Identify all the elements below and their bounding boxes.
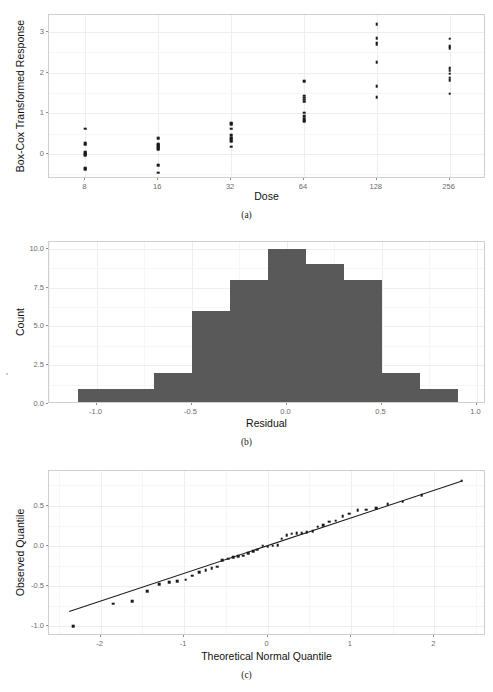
- panel-a-plot-area: [48, 14, 485, 178]
- panel-a-data-point: [448, 73, 451, 76]
- panel-c-data-point: [375, 507, 378, 510]
- panel-c-y-tick-label: 0.5: [22, 500, 44, 509]
- panel-c-data-point: [401, 500, 404, 503]
- panel-c-y-tickmark: [46, 585, 48, 586]
- panel-c-data-point: [461, 479, 464, 482]
- panel-c-data-point: [176, 580, 179, 583]
- panel-c-gridline-horizontal-minor: [49, 485, 484, 486]
- panel-c-gridline-horizontal-minor: [49, 526, 484, 527]
- panel-c-x-tickmark: [100, 635, 101, 637]
- panel-a-data-point: [303, 112, 306, 115]
- panel-b-x-tick-label: 1.0: [470, 407, 480, 416]
- panel-c-data-point: [335, 520, 338, 523]
- panel-c-gridline-vertical: [101, 471, 102, 634]
- panel-a-x-tickmark: [376, 178, 377, 180]
- panel-c-data-point: [311, 530, 314, 533]
- panel-c-gridline-vertical: [351, 471, 352, 634]
- panel-a-data-point: [84, 127, 87, 130]
- panel-c-data-point: [300, 532, 303, 535]
- panel-b-gridline-vertical-minor: [49, 242, 50, 402]
- panel-c-y-tickmark: [46, 505, 48, 506]
- panel-b-gridline-vertical: [97, 242, 98, 402]
- panel-a-x-tickmark: [84, 178, 85, 180]
- panel-c-gridline-vertical: [268, 471, 269, 634]
- panel-c-x-tickmark: [267, 635, 268, 637]
- panel-b-x-tick-label: -1.0: [89, 407, 102, 416]
- panel-b-y-tickmark: [46, 325, 48, 326]
- panel-b-histogram-bar: [268, 249, 306, 403]
- panel-c-x-tick-label: -2: [96, 639, 103, 648]
- panel-b-y-tickmark: [46, 403, 48, 404]
- panel-a-x-tickmark: [157, 178, 158, 180]
- panel-c-data-point: [290, 532, 293, 535]
- panel-b-histogram-bar: [420, 389, 458, 404]
- panel-b-y-tickmark: [46, 287, 48, 288]
- panel-c-data-point: [261, 545, 264, 548]
- panel-a-data-point: [157, 164, 160, 167]
- panel-a-x-tick-label: 16: [153, 182, 161, 191]
- figure-page: Dose Box-Cox Transformed Response (a) 81…: [0, 0, 493, 692]
- panel-c-gridline-vertical-minor: [142, 471, 143, 634]
- panel-b-histogram-bar: [192, 311, 230, 403]
- panel-c-data-point: [280, 537, 283, 540]
- panel-c-data-point: [168, 581, 171, 584]
- caption-a: (a): [0, 210, 493, 220]
- panel-c-data-point: [158, 583, 161, 586]
- panel-b-residual-histogram: Residual Count (b) -1.0-0.50.00.51.00.02…: [0, 230, 493, 462]
- panel-c-data-point: [232, 556, 235, 559]
- panel-c-data-point: [276, 544, 279, 547]
- panel-c-gridline-vertical-minor: [309, 471, 310, 634]
- panel-b-gridline-horizontal-minor: [49, 268, 484, 269]
- panel-b-y-tickmark: [46, 364, 48, 365]
- panel-c-y-tickmark: [46, 625, 48, 626]
- panel-c-y-axis-title: Observed Quantile: [14, 470, 26, 635]
- panel-c-data-point: [204, 569, 207, 572]
- panel-c-data-point: [198, 571, 201, 574]
- panel-a-gridline-vertical: [158, 15, 159, 177]
- panel-a-data-point: [448, 69, 451, 72]
- panel-b-histogram-bar: [154, 373, 192, 403]
- panel-c-data-point: [356, 509, 359, 512]
- panel-b-y-tick-label: 2.5: [22, 360, 44, 369]
- panel-b-histogram-bar: [78, 389, 116, 404]
- panel-c-qq-plot: Theoretical Normal Quantile Observed Qua…: [0, 462, 493, 692]
- panel-b-histogram-bar: [382, 373, 420, 403]
- panel-c-x-tick-label: -1: [180, 639, 187, 648]
- panel-b-x-tickmark: [476, 403, 477, 405]
- panel-a-y-tick-label: 1: [24, 108, 44, 117]
- panel-b-y-tick-label: 10.0: [22, 243, 44, 252]
- panel-c-x-tick-label: 1: [348, 639, 352, 648]
- panel-c-y-tick-label: -1.0: [22, 621, 44, 630]
- panel-a-x-tick-label: 64: [299, 182, 307, 191]
- panel-c-data-point: [285, 534, 288, 537]
- panel-a-x-tickmark: [449, 178, 450, 180]
- panel-c-data-point: [316, 525, 319, 528]
- panel-c-x-tick-label: 0: [264, 639, 268, 648]
- panel-c-gridline-vertical-minor: [59, 471, 60, 634]
- panel-a-data-point: [84, 154, 87, 157]
- panel-b-gridline-vertical: [477, 242, 478, 402]
- panel-a-data-point: [157, 137, 160, 140]
- panel-a-data-point: [84, 143, 87, 146]
- panel-c-data-point: [420, 494, 423, 497]
- panel-b-x-tickmark: [286, 403, 287, 405]
- panel-c-data-point: [266, 545, 269, 548]
- panel-a-y-tickmark: [46, 31, 48, 32]
- panel-c-plot-area: [48, 470, 485, 635]
- panel-b-x-tickmark: [381, 403, 382, 405]
- panel-c-gridline-vertical: [184, 471, 185, 634]
- caption-b: (b): [0, 437, 493, 447]
- panel-c-gridline-horizontal-minor: [49, 566, 484, 567]
- panel-a-x-tick-label: 128: [369, 182, 382, 191]
- panel-a-gridline-horizontal-minor: [49, 52, 484, 53]
- panel-a-gridline-horizontal-minor: [49, 174, 484, 175]
- panel-a-y-tick-label: 3: [24, 27, 44, 36]
- panel-c-x-tickmark: [433, 635, 434, 637]
- panel-c-gridline-vertical: [434, 471, 435, 634]
- panel-b-x-axis-title: Residual: [48, 417, 485, 429]
- panel-c-gridline-vertical-minor: [393, 471, 394, 634]
- panel-a-y-tickmark: [46, 153, 48, 154]
- panel-c-x-axis-title: Theoretical Normal Quantile: [48, 650, 485, 662]
- panel-b-x-tickmark: [96, 403, 97, 405]
- panel-b-plot-area: [48, 241, 485, 403]
